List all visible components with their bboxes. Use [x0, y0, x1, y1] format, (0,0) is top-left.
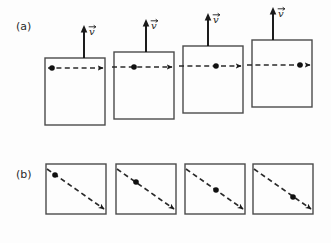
particle-dot-b-2: [133, 179, 139, 185]
particle-dot-b-1: [52, 172, 58, 178]
panel-label-b: (b): [16, 168, 32, 181]
figure-background: [0, 0, 331, 243]
particle-dot-a-2: [131, 64, 137, 70]
figure-root: (a)vvvv (b): [0, 0, 331, 243]
particle-dot-b-4: [290, 194, 296, 200]
particle-dot-a-4: [297, 62, 303, 68]
particle-dot-b-3: [213, 187, 219, 193]
figure-canvas: (a)vvvv (b): [0, 0, 331, 243]
particle-dot-a-1: [49, 65, 55, 71]
particle-dot-a-3: [213, 63, 219, 69]
panel-label-a: (a): [16, 20, 31, 33]
